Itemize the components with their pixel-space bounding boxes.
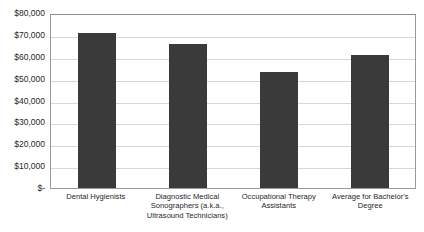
y-axis-tick-label: $60,000 — [14, 53, 45, 62]
y-axis-tick-label: $- — [37, 184, 45, 193]
y-axis-tick-label: $80,000 — [14, 9, 45, 18]
x-axis-category-label: Average for Bachelor's Degree — [325, 192, 417, 232]
bar-slot — [233, 15, 324, 188]
x-axis-category-label: Dental Hygienists — [50, 192, 142, 232]
plot-area — [50, 14, 416, 189]
y-axis: $80,000$70,000$60,000$50,000$40,000$30,0… — [0, 0, 48, 232]
y-axis-tick-label: $10,000 — [14, 162, 45, 171]
y-axis-tick-label: $50,000 — [14, 75, 45, 84]
y-axis-tick-label: $70,000 — [14, 31, 45, 40]
chart-title — [0, 0, 424, 4]
x-axis-category-label: Diagnostic Medical Sonographers (a.k.a.,… — [142, 192, 234, 232]
bar[interactable] — [78, 33, 116, 188]
bars-layer — [51, 15, 415, 188]
x-axis-category-labels: Dental HygienistsDiagnostic Medical Sono… — [50, 192, 416, 232]
bar-slot — [142, 15, 233, 188]
y-axis-tick-label: $20,000 — [14, 140, 45, 149]
bar[interactable] — [260, 72, 298, 188]
bar[interactable] — [351, 55, 389, 188]
y-axis-tick-label: $30,000 — [14, 118, 45, 127]
y-axis-tick-label: $40,000 — [14, 97, 45, 106]
bar-slot — [51, 15, 142, 188]
x-axis-category-label: Occupational Therapy Assistants — [233, 192, 325, 232]
bar-chart-figure: $80,000$70,000$60,000$50,000$40,000$30,0… — [0, 0, 424, 232]
bar-slot — [324, 15, 415, 188]
bar[interactable] — [169, 44, 207, 188]
